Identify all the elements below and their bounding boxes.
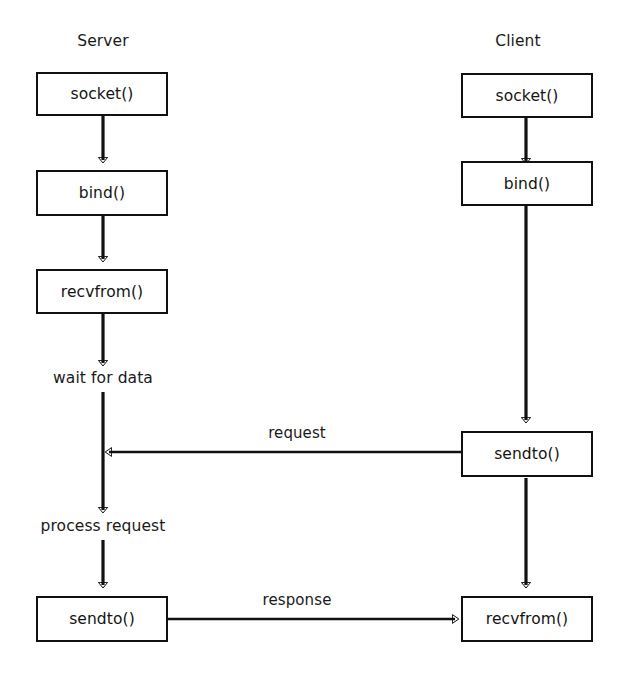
server-node-sendto[interactable]: sendto()	[36, 596, 168, 642]
client-node-socket[interactable]: socket()	[461, 73, 593, 118]
column-title-server: Server	[43, 32, 163, 50]
edge-label-request: request	[237, 424, 357, 442]
edge-label-response: response	[237, 591, 357, 609]
server-node-socket[interactable]: socket()	[36, 72, 168, 116]
server-node-bind[interactable]: bind()	[36, 170, 168, 216]
column-title-client: Client	[458, 32, 578, 50]
client-node-bind[interactable]: bind()	[461, 161, 593, 206]
server-label-wait-for-data: wait for data	[13, 369, 193, 387]
server-node-recvfrom[interactable]: recvfrom()	[36, 269, 168, 314]
client-node-sendto[interactable]: sendto()	[461, 431, 593, 477]
udp-client-server-diagram: Server Client socket() bind() recvfrom()…	[0, 0, 624, 675]
server-label-process-request: process request	[13, 517, 193, 535]
client-node-recvfrom[interactable]: recvfrom()	[461, 596, 593, 642]
